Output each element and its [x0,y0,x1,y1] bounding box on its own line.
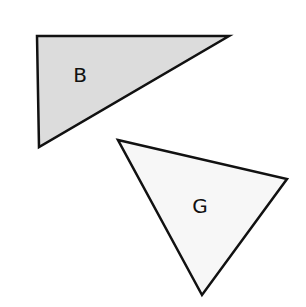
diagram-canvas: B G [0,0,306,307]
triangle-b [37,36,229,147]
triangle-b-label: B [73,63,87,87]
triangle-g-label: G [192,194,208,218]
